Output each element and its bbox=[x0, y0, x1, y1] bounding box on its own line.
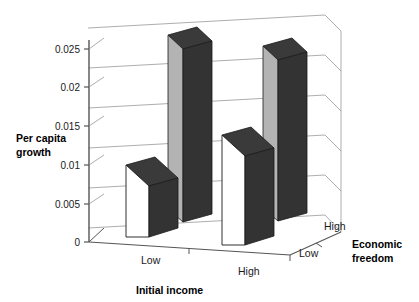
y-tick-label-0.015: 0.015 bbox=[55, 121, 80, 132]
chart-container: 0.025 0.02 0.015 0.01 0.005 0 Per capita… bbox=[0, 0, 419, 302]
x-axis-tick-labels: Low High bbox=[141, 254, 260, 277]
z-tick-label-low: Low bbox=[299, 247, 319, 259]
right-wall bbox=[325, 15, 341, 232]
y-tick-label-0.025: 0.025 bbox=[55, 44, 80, 55]
y-axis-title-line1: Per capita bbox=[16, 132, 66, 144]
y-tick-label-0.01: 0.01 bbox=[61, 160, 81, 171]
bar-chart-3d: 0.025 0.02 0.015 0.01 0.005 0 Per capita… bbox=[0, 0, 419, 302]
x-axis-title: Initial income bbox=[136, 284, 203, 296]
bar-side-face bbox=[245, 148, 274, 245]
y-tick-label-0.02: 0.02 bbox=[61, 82, 81, 93]
x-tick-label-low: Low bbox=[141, 254, 161, 266]
bar-high-income-low-freedom[interactable] bbox=[222, 127, 274, 245]
y-axis-title-line2: growth bbox=[16, 146, 51, 158]
x-tick-label-high: High bbox=[238, 265, 260, 277]
y-tick-label-0: 0 bbox=[74, 237, 80, 248]
bar-side-face bbox=[149, 178, 178, 237]
z-axis-title-line1: Economic bbox=[352, 238, 402, 250]
bar-side-face bbox=[183, 41, 212, 222]
z-tick-label-high: High bbox=[324, 220, 346, 232]
z-axis-title: Economic freedom bbox=[352, 238, 402, 264]
y-axis-title: Per capita growth bbox=[16, 132, 66, 158]
z-axis-title-line2: freedom bbox=[352, 252, 393, 264]
y-tick-label-0.005: 0.005 bbox=[55, 199, 80, 210]
bar-side-face bbox=[278, 52, 307, 221]
